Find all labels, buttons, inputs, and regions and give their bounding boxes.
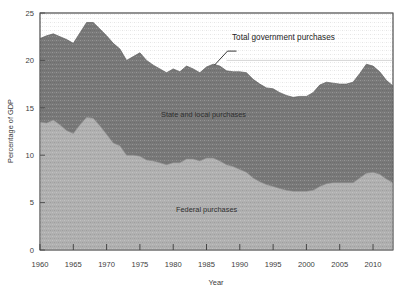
x-tick-label: 1970 xyxy=(98,260,115,269)
x-tick-label: 1985 xyxy=(198,260,215,269)
chart-figure: 0510152025 19601965197019751980198519901… xyxy=(0,0,416,294)
x-tick-label: 2005 xyxy=(331,260,348,269)
x-tick-label: 2010 xyxy=(365,260,382,269)
label-state-and-local-purchases: State and local purchases xyxy=(161,110,246,119)
y-tick-label: 0 xyxy=(30,246,34,255)
x-tick-label: 1990 xyxy=(231,260,248,269)
y-tick-label: 20 xyxy=(26,56,34,65)
y-tick-label: 10 xyxy=(26,151,34,160)
x-tick-label: 2000 xyxy=(298,260,315,269)
annotation-total-government-purchases: Total government purchases xyxy=(232,33,335,42)
x-tick-label: 1960 xyxy=(32,260,49,269)
y-tick-label: 15 xyxy=(26,104,34,113)
area-chart: 0510152025 19601965197019751980198519901… xyxy=(0,0,416,294)
x-axis-title: Year xyxy=(209,278,224,287)
y-tick-label: 5 xyxy=(30,198,34,207)
y-axis-title: Percentage of GDP xyxy=(6,99,15,163)
x-tick-label: 1980 xyxy=(165,260,182,269)
label-federal-purchases: Federal purchases xyxy=(176,205,238,214)
y-tick-label: 25 xyxy=(26,9,34,18)
x-tick-label: 1965 xyxy=(65,260,82,269)
x-tick-label: 1995 xyxy=(265,260,282,269)
x-tick-label: 1975 xyxy=(131,260,148,269)
